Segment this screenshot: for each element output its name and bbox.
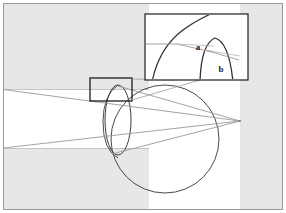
- lower-shaded-band: [3, 148, 149, 210]
- label-a: a: [196, 42, 201, 52]
- focus-vertex-point: [239, 120, 241, 122]
- magnified-inset: a b: [145, 12, 248, 82]
- upper-shaded-band: [3, 3, 149, 90]
- label-b: b: [218, 64, 223, 74]
- optical-ray-diagram: a b: [0, 0, 286, 213]
- figure-container: a b: [0, 0, 286, 213]
